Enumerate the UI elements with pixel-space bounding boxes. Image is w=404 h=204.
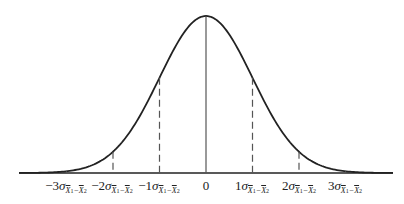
tick-label-plus-1-sigma: 1σX1−X2 [235,178,269,199]
normal-curve-svg [0,0,404,204]
tick-label-zero: 0 [203,178,210,194]
tick-label-minus-1-sigma: −1σX1−X2 [138,178,179,199]
tick-label-minus-2-sigma: −2σX1−X2 [91,178,132,199]
tick-label-plus-2-sigma: 2σX1−X2 [282,178,316,199]
tick-label-minus-3-sigma: −3σX1−X2 [45,178,86,199]
normal-curve-figure: −3σX1−X2 −2σX1−X2 −1σX1−X2 0 1σX1−X2 2σX… [0,0,404,204]
tick-label-plus-3-sigma: 3σX1−X2 [328,178,362,199]
